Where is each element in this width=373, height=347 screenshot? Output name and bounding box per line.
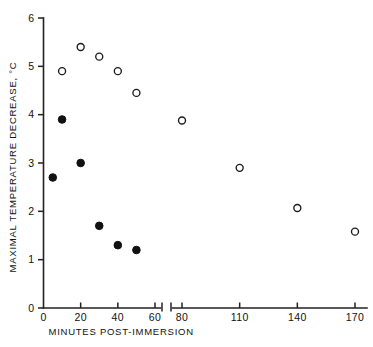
x-tick-label-0: 0	[40, 311, 46, 323]
x-tick-label-170: 170	[346, 311, 365, 323]
data-point-open-circles-1	[77, 44, 84, 51]
data-point-open-circles-3	[114, 68, 121, 75]
y-tick-label-3: 3	[28, 157, 34, 169]
y-tick-label-5: 5	[28, 60, 34, 72]
data-point-filled-circles-1	[58, 116, 66, 124]
y-tick-label-6: 6	[28, 12, 34, 24]
scatter-plot: 0123456 020406080110140170 MINUTES POST-…	[0, 0, 373, 347]
data-point-open-circles-8	[352, 228, 359, 235]
x-axis-break-marker	[162, 303, 171, 312]
data-point-open-circles-5	[179, 117, 186, 124]
data-point-filled-circles-3	[95, 222, 103, 230]
x-tick-label-60: 60	[149, 311, 161, 323]
y-tick-label-2: 2	[28, 205, 34, 217]
x-tick-label-20: 20	[74, 311, 86, 323]
y-tick-label-0: 0	[28, 302, 34, 314]
x-tick-label-140: 140	[288, 311, 307, 323]
axes-group	[44, 18, 368, 308]
x-tick-label-40: 40	[112, 311, 124, 323]
data-point-filled-circles-4	[114, 241, 122, 249]
data-point-open-circles-2	[96, 53, 103, 60]
x-tick-label-110: 110	[231, 311, 249, 323]
data-point-filled-circles-0	[49, 174, 57, 182]
data-point-filled-circles-2	[77, 159, 85, 167]
y-axis-ticks: 0123456	[28, 12, 43, 314]
x-axis-title: MINUTES POST-IMMERSION	[49, 326, 194, 337]
data-point-open-circles-7	[294, 204, 301, 211]
y-axis-title: MAXIMAL TEMPERATURE DECREASE, °C	[7, 62, 18, 273]
x-axis-ticks: 020406080110140170	[40, 303, 364, 324]
data-point-open-circles-6	[236, 164, 243, 171]
y-tick-label-4: 4	[28, 108, 34, 120]
data-point-open-circles-4	[133, 89, 140, 96]
y-tick-label-1: 1	[28, 253, 34, 265]
data-point-open-circles-0	[59, 68, 66, 75]
data-markers	[49, 44, 359, 254]
axis-titles: MINUTES POST-IMMERSIONMAXIMAL TEMPERATUR…	[7, 62, 194, 337]
x-tick-label-80: 80	[176, 311, 188, 323]
figure-container: 0123456 020406080110140170 MINUTES POST-…	[0, 0, 373, 347]
data-point-filled-circles-5	[133, 246, 141, 254]
